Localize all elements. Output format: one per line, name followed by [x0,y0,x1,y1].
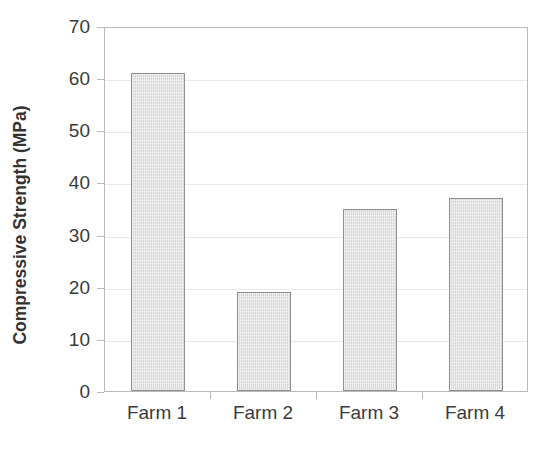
x-tick-mark [316,392,317,399]
bar [237,292,291,391]
y-tick-mark [97,183,104,184]
bar-chart-figure: Compressive Strength (MPa) 0102030405060… [0,0,549,450]
y-tick-mark [97,79,104,80]
y-tick-mark [97,340,104,341]
bar [131,73,185,391]
y-tick-mark [97,288,104,289]
y-tick-label: 60 [69,67,90,91]
y-tick-label: 70 [69,15,90,39]
bar [449,198,503,391]
y-tick-mark [97,392,104,393]
plot-area [104,27,528,392]
bar [343,209,397,392]
y-tick-label: 30 [69,224,90,248]
y-tick-label: 20 [69,276,90,300]
y-axis-title: Compressive Strength (MPa) [0,0,40,450]
y-tick-label: 0 [79,380,90,404]
y-tick-mark [97,236,104,237]
x-tick-label: Farm 3 [316,402,422,424]
y-tick-label: 50 [69,119,90,143]
y-tick-mark [97,27,104,28]
y-tick-label: 10 [69,328,90,352]
y-tick-mark [97,131,104,132]
x-tick-label: Farm 4 [422,402,528,424]
x-tick-label: Farm 1 [104,402,210,424]
x-tick-label: Farm 2 [210,402,316,424]
x-tick-mark [422,392,423,399]
y-tick-label: 40 [69,171,90,195]
x-tick-mark [210,392,211,399]
